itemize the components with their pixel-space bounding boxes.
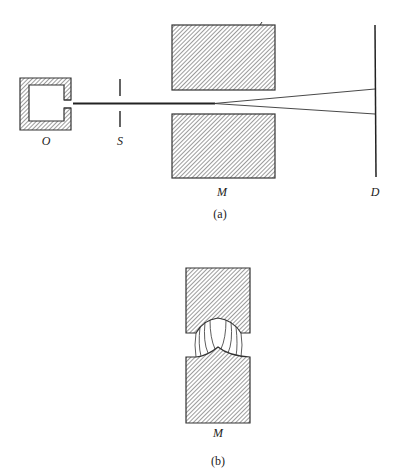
detector [375,25,376,177]
label-detector: D [370,185,380,199]
figure-b: M (b) [186,268,250,468]
label-slit: S [117,134,123,148]
magnet-lower-pole-shaped [186,347,250,423]
mass-spectrometer-diagram: O S M D (a) M (b) [0,0,402,469]
ion-source [20,78,71,130]
label-magnet-b: M [212,426,224,440]
magnet-upper-pole-shaped [186,268,250,333]
figure-a: O S M D (a) [20,22,380,221]
caption-a: (a) [213,207,226,221]
magnet-upper-pole [172,25,275,90]
label-source: O [42,134,51,148]
caption-b: (b) [211,454,225,468]
label-magnet: M [216,185,228,199]
deflected-beams [214,89,375,114]
magnet-lower-pole [172,114,275,178]
